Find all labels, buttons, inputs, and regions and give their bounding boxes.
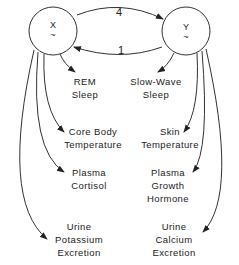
label-skin-temperature: Skin Temperature	[135, 125, 205, 151]
oscillator-y: Y ~	[180, 22, 192, 42]
label-urine-calcium-excretion: Urine Calcium Excretion	[146, 220, 202, 259]
label-plasma-cortisol: Plasma Cortisol	[64, 166, 114, 192]
label-core-body-temperature: Core Body Temperature	[58, 125, 128, 151]
arrow-y-urine-calcium	[203, 49, 222, 232]
label-slow-wave-sleep: Slow-Wave Sleep	[125, 75, 187, 101]
label-plasma-growth-hormone: Plasma Growth Hormone	[143, 166, 193, 205]
arrow-y-plasma-gh	[193, 51, 205, 172]
arrow-x-urine-potassium	[20, 50, 47, 239]
arrow-y-slow-wave-sleep	[158, 53, 174, 72]
oscillator-y-symbol: ~	[180, 32, 192, 42]
coupling-strength-x-to-y: 4	[116, 6, 122, 18]
oscillator-x: X ~	[47, 20, 59, 40]
arrow-x-rem-sleep	[60, 54, 75, 72]
label-urine-potassium-excretion: Urine Potassium Excretion	[49, 220, 109, 259]
arrow-x-plasma-cortisol	[36, 52, 64, 172]
oscillator-x-label: X	[47, 20, 59, 30]
coupling-strength-y-to-x: 1	[118, 44, 124, 56]
oscillator-y-label: Y	[180, 22, 192, 32]
label-rem-sleep: REM Sleep	[60, 75, 110, 101]
oscillator-x-symbol: ~	[47, 30, 59, 40]
